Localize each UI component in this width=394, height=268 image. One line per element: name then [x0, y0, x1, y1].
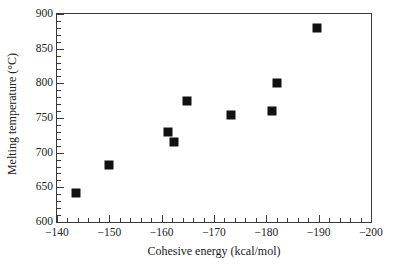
- y-tick-label: 650: [36, 182, 53, 194]
- x-tick-major: −170: [214, 215, 215, 222]
- y-tick-minor: [57, 180, 61, 181]
- y-tick-minor: [57, 173, 61, 174]
- x-axis-title: Cohesive energy (kcal/mol): [56, 245, 372, 257]
- x-tick-minor: [361, 218, 362, 222]
- y-tick-minor: [57, 111, 61, 112]
- y-tick-minor: [57, 132, 61, 133]
- x-tick-major: −160: [162, 215, 163, 222]
- x-tick-major: −180: [266, 215, 267, 222]
- y-tick-minor: [57, 63, 61, 64]
- x-tick-minor: [287, 218, 288, 222]
- x-tick-major: −200: [371, 215, 372, 222]
- x-tick-label: −170: [202, 227, 226, 239]
- data-point: [226, 111, 235, 120]
- y-tick-minor: [57, 167, 61, 168]
- x-tick-minor: [235, 218, 236, 222]
- x-tick-minor: [130, 218, 131, 222]
- x-tick-minor: [78, 218, 79, 222]
- y-tick-minor: [57, 201, 61, 202]
- data-point: [267, 107, 276, 116]
- plot-area: 600650700750800850900 −140−150−160−170−1…: [56, 13, 372, 223]
- x-tick-label: −140: [45, 227, 69, 239]
- y-tick-major: 700: [57, 153, 64, 154]
- x-tick-major: −150: [109, 215, 110, 222]
- x-tick-label: −180: [254, 227, 278, 239]
- y-tick-minor: [57, 21, 61, 22]
- y-tick-minor: [57, 42, 61, 43]
- y-tick-minor: [57, 194, 61, 195]
- y-tick-minor: [57, 208, 61, 209]
- x-tick-minor: [151, 218, 152, 222]
- y-tick-major: 900: [57, 14, 64, 15]
- y-tick-label: 750: [36, 112, 53, 124]
- x-tick-label: −150: [97, 227, 121, 239]
- x-tick-minor: [120, 218, 121, 222]
- y-tick-minor: [57, 90, 61, 91]
- y-tick-minor: [57, 35, 61, 36]
- x-tick-minor: [329, 218, 330, 222]
- x-tick-minor: [141, 218, 142, 222]
- y-tick-major: 600: [57, 222, 64, 223]
- x-tick-minor: [88, 218, 89, 222]
- y-axis-title: Melting temperature (°C): [6, 9, 18, 219]
- x-tick-minor: [99, 218, 100, 222]
- y-tick-label: 700: [36, 147, 53, 159]
- y-tick-minor: [57, 160, 61, 161]
- y-tick-major: 850: [57, 49, 64, 50]
- x-tick-minor: [245, 218, 246, 222]
- x-tick-minor: [172, 218, 173, 222]
- x-tick-minor: [350, 218, 351, 222]
- y-tick-label: 850: [36, 43, 53, 55]
- y-tick-minor: [57, 139, 61, 140]
- data-point: [169, 138, 178, 147]
- x-tick-label: −200: [359, 227, 383, 239]
- x-tick-label: −160: [150, 227, 174, 239]
- y-tick-minor: [57, 97, 61, 98]
- x-tick-minor: [183, 218, 184, 222]
- x-tick-minor: [256, 218, 257, 222]
- data-point: [273, 79, 282, 88]
- x-tick-major: −140: [57, 215, 58, 222]
- y-tick-label: 900: [36, 8, 53, 20]
- x-tick-minor: [340, 218, 341, 222]
- x-tick-minor: [193, 218, 194, 222]
- x-tick-minor: [204, 218, 205, 222]
- y-tick-minor: [57, 76, 61, 77]
- y-tick-label: 800: [36, 78, 53, 90]
- y-tick-minor: [57, 125, 61, 126]
- data-point: [313, 23, 322, 32]
- data-point: [71, 188, 80, 197]
- x-tick-minor: [224, 218, 225, 222]
- chart-figure: 600650700750800850900 −140−150−160−170−1…: [0, 0, 394, 268]
- x-tick-minor: [298, 218, 299, 222]
- y-tick-major: 800: [57, 83, 64, 84]
- y-tick-minor: [57, 146, 61, 147]
- data-point: [104, 161, 113, 170]
- y-tick-minor: [57, 56, 61, 57]
- y-tick-major: 650: [57, 187, 64, 188]
- x-tick-major: −190: [319, 215, 320, 222]
- y-tick-minor: [57, 28, 61, 29]
- x-tick-minor: [277, 218, 278, 222]
- x-tick-minor: [67, 218, 68, 222]
- x-tick-label: −190: [307, 227, 331, 239]
- y-tick-minor: [57, 104, 61, 105]
- data-point: [183, 96, 192, 105]
- data-point: [163, 127, 172, 136]
- y-tick-minor: [57, 69, 61, 70]
- y-tick-major: 750: [57, 118, 64, 119]
- x-tick-minor: [308, 218, 309, 222]
